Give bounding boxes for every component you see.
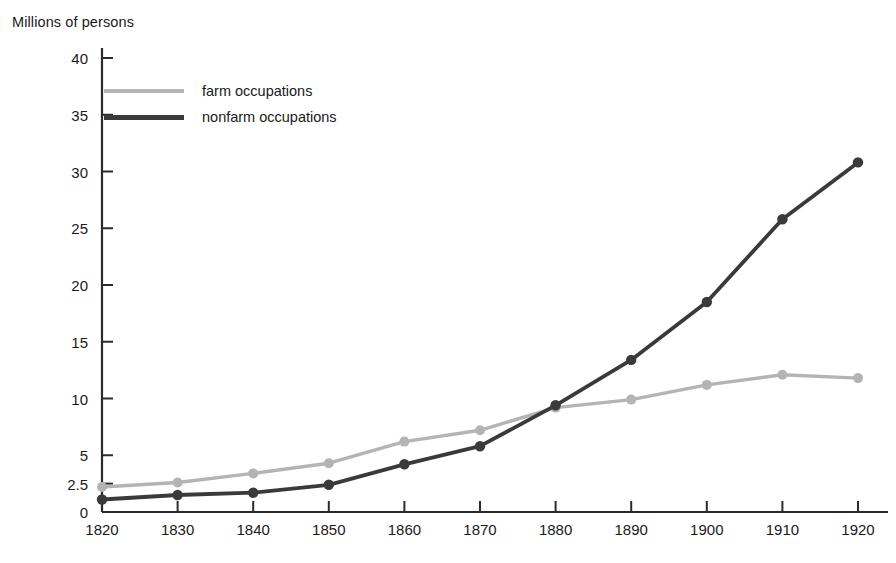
data-point-nonfarm-1900: [702, 297, 712, 307]
legend-swatch-nonfarm: [104, 115, 184, 120]
y-tick-label: 2.5: [0, 475, 88, 492]
x-tick-label: 1910: [766, 521, 799, 538]
data-point-farm-1910: [777, 370, 787, 380]
y-tick-label: 0: [0, 504, 88, 521]
legend-item-nonfarm: nonfarm occupations: [104, 104, 404, 130]
data-point-nonfarm-1890: [626, 355, 636, 365]
x-tick-label: 1830: [161, 521, 194, 538]
x-tick-label: 1880: [539, 521, 572, 538]
data-point-nonfarm-1860: [399, 459, 409, 469]
x-tick-label: 1870: [463, 521, 496, 538]
y-tick-label: 30: [0, 163, 88, 180]
x-tick-label: 1840: [237, 521, 270, 538]
data-point-nonfarm-1880: [550, 400, 560, 410]
data-point-farm-1830: [173, 478, 183, 488]
y-tick-label: 25: [0, 220, 88, 237]
x-tick-label: 1860: [388, 521, 421, 538]
line-chart: Millions of persons 02.5510152025303540 …: [0, 0, 896, 563]
data-point-nonfarm-1820: [97, 494, 107, 504]
data-point-nonfarm-1910: [777, 214, 787, 224]
data-point-farm-1820: [97, 482, 107, 492]
y-tick-label: 20: [0, 277, 88, 294]
legend-label-nonfarm: nonfarm occupations: [202, 109, 337, 125]
data-point-farm-1920: [853, 373, 863, 383]
legend-swatch-farm: [104, 89, 184, 93]
data-point-nonfarm-1840: [248, 488, 258, 498]
y-tick-label: 35: [0, 106, 88, 123]
x-tick-label: 1920: [841, 521, 874, 538]
y-tick-label: 15: [0, 333, 88, 350]
data-point-nonfarm-1830: [172, 490, 182, 500]
data-point-farm-1900: [702, 380, 712, 390]
chart-legend: farm occupations nonfarm occupations: [104, 78, 404, 130]
data-point-farm-1840: [248, 468, 258, 478]
legend-label-farm: farm occupations: [202, 83, 312, 99]
data-point-farm-1850: [324, 458, 334, 468]
x-tick-label: 1900: [690, 521, 723, 538]
x-tick-label: 1820: [85, 521, 118, 538]
x-tick-label: 1890: [615, 521, 648, 538]
legend-item-farm: farm occupations: [104, 78, 404, 104]
y-tick-label: 40: [0, 50, 88, 67]
x-tick-label: 1850: [312, 521, 345, 538]
data-point-nonfarm-1920: [853, 157, 863, 167]
y-tick-label: 10: [0, 390, 88, 407]
data-point-farm-1870: [475, 425, 485, 435]
y-tick-label: 5: [0, 447, 88, 464]
data-point-farm-1890: [626, 395, 636, 405]
data-point-farm-1860: [399, 437, 409, 447]
data-point-nonfarm-1850: [324, 480, 334, 490]
data-point-nonfarm-1870: [475, 441, 485, 451]
